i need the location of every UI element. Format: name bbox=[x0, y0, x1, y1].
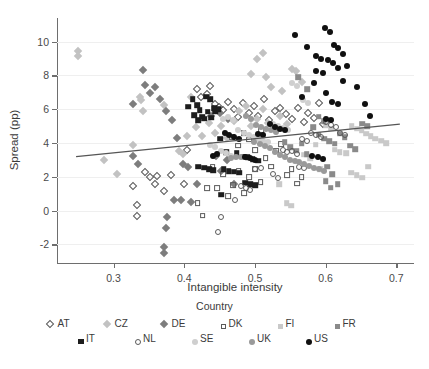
legend-label: FR bbox=[343, 318, 356, 329]
legend-marker-icon bbox=[243, 334, 255, 344]
legend-marker-icon bbox=[186, 334, 198, 344]
legend-label: AT bbox=[58, 318, 70, 329]
legend-marker-icon bbox=[272, 319, 284, 329]
legend-row: ATCZDEDKFIFR bbox=[0, 318, 429, 329]
y-tick-label: 6 bbox=[43, 103, 49, 115]
y-tick-label: -2 bbox=[40, 238, 49, 250]
x-tick bbox=[396, 263, 397, 268]
legend-item-FR[interactable]: FR bbox=[329, 318, 386, 329]
x-tick-label: 0.7 bbox=[389, 272, 404, 284]
legend-entries: ATCZDEDKFIFRITNLSEUKUS bbox=[0, 318, 429, 344]
legend-marker-icon bbox=[129, 334, 141, 344]
legend-label: DE bbox=[172, 318, 186, 329]
legend-item-UK[interactable]: UK bbox=[243, 333, 300, 344]
legend-item-FI[interactable]: FI bbox=[272, 318, 329, 329]
legend-marker-icon bbox=[44, 319, 56, 329]
legend-marker-icon bbox=[300, 334, 312, 344]
legend-item-SE[interactable]: SE bbox=[186, 333, 243, 344]
y-tick-label: 0 bbox=[43, 205, 49, 217]
x-tick-label: 0.3 bbox=[106, 272, 121, 284]
trend-line bbox=[57, 18, 414, 263]
y-axis-label: Spread (pp) bbox=[8, 110, 20, 171]
legend: Country ATCZDEDKFIFRITNLSEUKUS bbox=[0, 300, 429, 348]
legend-item-DE[interactable]: DE bbox=[158, 318, 215, 329]
legend-marker-icon bbox=[72, 334, 84, 344]
legend-item-DK[interactable]: DK bbox=[215, 318, 272, 329]
legend-marker-icon bbox=[215, 319, 227, 329]
x-axis-label: Intangible intensity bbox=[187, 281, 282, 293]
legend-label: CZ bbox=[115, 318, 128, 329]
y-tick-label: 2 bbox=[43, 171, 49, 183]
legend-marker-icon bbox=[158, 319, 170, 329]
legend-item-NL[interactable]: NL bbox=[129, 333, 186, 344]
legend-item-AT[interactable]: AT bbox=[44, 318, 101, 329]
y-tick-label: 10 bbox=[37, 36, 49, 48]
x-tick-label: 0.4 bbox=[177, 272, 192, 284]
x-axis-line bbox=[57, 263, 414, 264]
legend-label: NL bbox=[143, 333, 156, 344]
legend-label: DK bbox=[229, 318, 243, 329]
y-tick-label: 8 bbox=[43, 69, 49, 81]
scatter-chart-figure: Spread (pp) Intangible intensity -202468… bbox=[0, 0, 429, 369]
legend-marker-icon bbox=[329, 319, 341, 329]
x-tick-label: 0.6 bbox=[318, 272, 333, 284]
x-tick-label: 0.5 bbox=[248, 272, 263, 284]
legend-item-IT[interactable]: IT bbox=[72, 333, 129, 344]
plot-area: -20246810 0.30.40.50.60.7 bbox=[57, 18, 414, 263]
legend-item-CZ[interactable]: CZ bbox=[101, 318, 158, 329]
legend-label: SE bbox=[200, 333, 213, 344]
legend-marker-icon bbox=[101, 319, 113, 329]
legend-row: ITNLSEUKUS bbox=[0, 333, 429, 344]
legend-label: FI bbox=[286, 318, 295, 329]
y-tick-label: 4 bbox=[43, 137, 49, 149]
legend-item-US[interactable]: US bbox=[300, 333, 357, 344]
x-tick bbox=[326, 263, 327, 268]
legend-label: IT bbox=[86, 333, 95, 344]
legend-label: US bbox=[314, 333, 328, 344]
x-tick bbox=[114, 263, 115, 268]
legend-label: UK bbox=[257, 333, 271, 344]
x-tick bbox=[184, 263, 185, 268]
x-tick bbox=[255, 263, 256, 268]
legend-title: Country bbox=[0, 300, 429, 312]
